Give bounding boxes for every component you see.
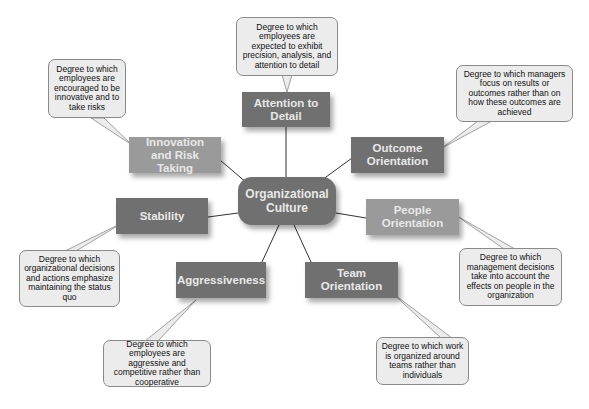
callout-text: Degree to which managers focus on result…	[461, 70, 568, 118]
node-team-orientation: Team Orientation	[305, 262, 398, 298]
callout-stability: Degree to which organizational decisions…	[19, 250, 120, 307]
callout-innovation-and-risk-taking: Degree to which employees are encouraged…	[48, 59, 126, 118]
callout-text: Degree to which work is organized around…	[381, 342, 464, 380]
callout-text: Degree to which employees are encouraged…	[53, 65, 121, 113]
callout-text: Degree to which management decisions tak…	[464, 253, 557, 301]
callout-people-orientation: Degree to which management decisions tak…	[459, 248, 562, 306]
center-label: Organizational Culture	[238, 187, 336, 215]
callout-team-orientation: Degree to which work is organized around…	[376, 337, 469, 385]
node-label: Stability	[140, 210, 185, 223]
node-innovation-and-risk-taking: Innovation and Risk Taking	[129, 137, 221, 173]
node-people-orientation: People Orientation	[366, 199, 459, 235]
node-label: Aggressiveness	[177, 274, 265, 287]
callout-attention-to-detail: Degree to which employees are expected t…	[236, 17, 338, 76]
node-outcome-orientation: Outcome Orientation	[351, 137, 444, 173]
callout-aggressiveness: Degree to which employees are aggressive…	[103, 340, 211, 387]
node-label: People Orientation	[378, 204, 447, 230]
node-label: Innovation and Risk Taking	[137, 136, 213, 175]
callout-outcome-orientation: Degree to which managers focus on result…	[456, 65, 573, 122]
callout-text: Degree to which organizational decisions…	[24, 255, 115, 303]
node-aggressiveness: Aggressiveness	[176, 262, 266, 298]
center-node-organizational-culture: Organizational Culture	[238, 177, 336, 225]
node-label: Team Orientation	[315, 267, 388, 293]
node-stability: Stability	[116, 198, 208, 234]
callout-text: Degree to which employees are aggressive…	[108, 340, 206, 388]
node-label: Outcome Orientation	[361, 142, 434, 168]
node-attention-to-detail: Attention to Detail	[242, 92, 330, 127]
callout-text: Degree to which employees are expected t…	[241, 23, 333, 71]
node-label: Attention to Detail	[248, 97, 324, 123]
